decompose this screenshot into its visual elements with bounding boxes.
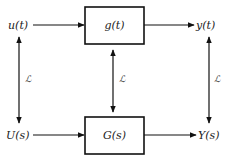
output-time-label: y(t) (195, 19, 215, 32)
output-laplace-label: Y(s) (198, 129, 220, 142)
input-laplace-label: U(s) (6, 129, 30, 142)
left-laplace-symbol: ℒ (25, 74, 32, 84)
input-time-label: u(t) (8, 19, 28, 32)
laplace-block-diagram: u(t) g(t) y(t) U(s) G(s) Y(s) ℒ ℒ ℒ (0, 0, 225, 159)
right-laplace-symbol: ℒ (214, 74, 221, 84)
laplace-block-label: G(s) (103, 129, 126, 142)
time-block-label: g(t) (104, 19, 124, 32)
middle-laplace-symbol: ℒ (119, 74, 126, 84)
